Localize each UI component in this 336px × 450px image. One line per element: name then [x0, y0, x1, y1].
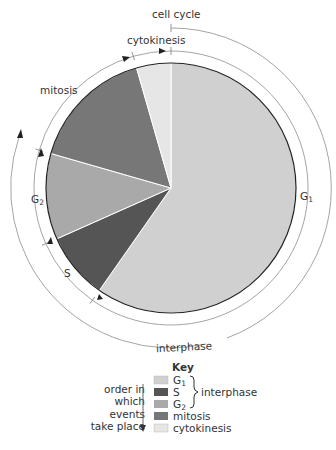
swatch-s — [154, 388, 168, 396]
key-item-mitosis: mitosis — [173, 410, 211, 422]
key-title: Key — [172, 361, 194, 373]
interphase-label: interphase — [156, 339, 213, 354]
key-item-cytokinesis: cytokinesis — [173, 422, 232, 434]
cell-cycle-label: cell cycle — [152, 8, 201, 20]
swatch-mitosis — [154, 412, 168, 420]
g1-label: G1 — [300, 190, 313, 204]
order-text: order in — [104, 383, 145, 395]
g2-label: G2 — [31, 193, 44, 207]
key-interphase-label: interphase — [201, 386, 257, 398]
order-text: which — [114, 395, 145, 407]
cytokinesis-label: cytokinesis — [127, 34, 186, 46]
arrow-icon — [17, 129, 23, 138]
pie-chart — [46, 63, 296, 313]
cell-cycle-diagram: cell cycle cytokinesis mitosis G2 S G1 i… — [0, 0, 336, 450]
key-item-s: S — [173, 386, 180, 398]
swatch-g1 — [154, 376, 168, 384]
order-text: take place — [91, 420, 145, 432]
order-text: events — [110, 408, 145, 420]
mitosis-label: mitosis — [40, 84, 78, 96]
key-legend: Key order in which events take place G1 … — [91, 361, 257, 434]
swatch-cytokinesis — [154, 424, 168, 432]
swatch-g2 — [154, 400, 168, 408]
s-label: S — [64, 267, 71, 279]
brace-icon — [190, 376, 198, 408]
